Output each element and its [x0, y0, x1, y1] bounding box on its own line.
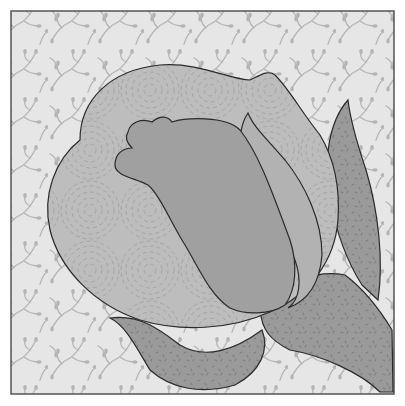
rose-quilt-illustration [0, 0, 405, 406]
